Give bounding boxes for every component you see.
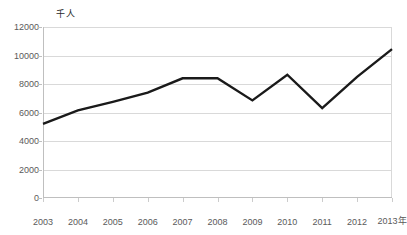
y-axis-tick-label: 12000	[0, 22, 39, 32]
x-axis-tick-mark	[392, 198, 393, 202]
y-axis-tick-mark	[38, 27, 42, 28]
y-axis-tick-label: 4000	[0, 136, 39, 146]
x-axis-tick-label: 2004	[68, 217, 88, 227]
y-axis-tick-label: 2000	[0, 165, 39, 175]
y-axis-tick-mark	[38, 170, 42, 171]
x-axis-tick-label: 2009	[242, 217, 262, 227]
series-polyline	[43, 49, 392, 124]
x-axis-tick-mark	[148, 198, 149, 202]
y-axis-tick-mark	[38, 141, 42, 142]
x-axis-tick-label: 2008	[207, 217, 227, 227]
y-axis-tick-mark	[38, 113, 42, 114]
x-axis-tick-mark	[113, 198, 114, 202]
x-axis-tick-mark	[287, 198, 288, 202]
x-axis-tick-mark	[218, 198, 219, 202]
plot-area	[43, 27, 392, 198]
data-series-line	[43, 27, 392, 198]
x-axis-tick-label: 2013年	[377, 214, 406, 227]
y-axis-tick-label: 0	[0, 193, 39, 203]
x-axis-tick-label: 2010	[277, 217, 297, 227]
x-axis-tick-mark	[322, 198, 323, 202]
x-axis-tick-label: 2007	[173, 217, 193, 227]
y-axis-tick-label: 6000	[0, 108, 39, 118]
y-axis-tick-label: 8000	[0, 79, 39, 89]
x-axis-tick-mark	[78, 198, 79, 202]
y-axis-unit-label: 千人	[56, 7, 75, 20]
x-axis-tick-label: 2003	[33, 217, 53, 227]
y-axis-tick-label: 10000	[0, 51, 39, 61]
x-axis-tick-mark	[252, 198, 253, 202]
x-axis-tick-mark	[357, 198, 358, 202]
y-axis-tick-mark	[38, 198, 42, 199]
x-axis-tick-label: 2005	[103, 217, 123, 227]
x-axis-tick-label: 2011	[313, 217, 332, 227]
x-axis-tick-label: 2006	[138, 217, 158, 227]
x-axis-tick-mark	[183, 198, 184, 202]
y-axis-tick-mark	[38, 56, 42, 57]
x-axis-tick-label: 2012	[347, 217, 367, 227]
y-axis-tick-mark	[38, 84, 42, 85]
x-axis-tick-mark	[43, 198, 44, 202]
